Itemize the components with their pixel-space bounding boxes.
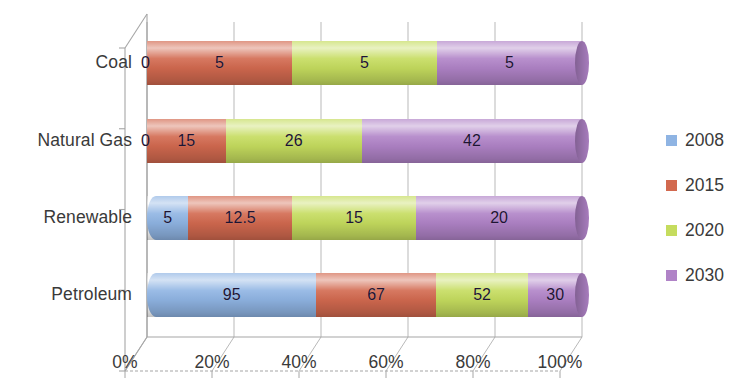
legend-color-swatch xyxy=(666,270,677,281)
bar-row[interactable]: 95675230 xyxy=(147,273,582,317)
value-axis-tick: 80% xyxy=(455,352,490,373)
value-axis-tick: 40% xyxy=(281,352,316,373)
bar-segment-value-label: 5 xyxy=(215,54,224,72)
bar-segment[interactable]: 52 xyxy=(436,273,529,317)
bar-segment[interactable]: 12.5 xyxy=(188,196,292,240)
bar-segment-value-label: 42 xyxy=(463,132,481,150)
bar-segment-value-label: 95 xyxy=(223,286,241,304)
legend-color-swatch xyxy=(666,135,677,146)
legend-item-2008[interactable]: 2008 xyxy=(666,118,724,163)
bar-end-cap xyxy=(575,41,589,85)
bar-row[interactable]: 0152642 xyxy=(147,119,582,163)
bar-segment[interactable]: 95 xyxy=(147,273,316,317)
value-axis-tick: 20% xyxy=(194,352,229,373)
bar-segment-value-label: 20 xyxy=(490,209,508,227)
bar-end-cap xyxy=(575,273,589,317)
value-axis-tick: 100% xyxy=(538,352,583,373)
legend-label: 2015 xyxy=(685,175,724,196)
bar-row[interactable]: 0555 xyxy=(147,41,582,85)
chart-3d-stacked-bar: CoalNatural GasRenewablePetroleum 055501… xyxy=(0,0,736,390)
chart-legend: 2008201520202030 xyxy=(666,118,724,298)
bar-segment[interactable]: 5 xyxy=(437,41,582,85)
bar-segment-value-label: 5 xyxy=(360,54,369,72)
legend-color-swatch xyxy=(666,180,677,191)
bar-segment-value-label: 52 xyxy=(473,286,491,304)
bar-segment[interactable]: 5 xyxy=(147,41,292,85)
bar-segment-value-label: 67 xyxy=(367,286,385,304)
bar-segment-value-label: 12.5 xyxy=(225,209,256,227)
category-label-petroleum: Petroleum xyxy=(51,284,132,305)
bar-segment[interactable]: 15 xyxy=(147,119,226,163)
bar-segment-value-label: 30 xyxy=(546,286,564,304)
legend-item-2015[interactable]: 2015 xyxy=(666,163,724,208)
bar-segment-value-label: 26 xyxy=(285,132,303,150)
bar-end-cap xyxy=(575,119,589,163)
bar-segment[interactable]: 5 xyxy=(147,196,188,240)
bar-segment-value-label: 0 xyxy=(141,132,150,150)
category-label-natural-gas: Natural Gas xyxy=(38,130,132,151)
legend-color-swatch xyxy=(666,225,677,236)
legend-label: 2030 xyxy=(685,265,724,286)
legend-label: 2008 xyxy=(685,130,724,151)
bar-row[interactable]: 512.51520 xyxy=(147,196,582,240)
bar-segment[interactable]: 5 xyxy=(292,41,437,85)
legend-label: 2020 xyxy=(685,220,724,241)
bar-segment-value-label: 5 xyxy=(163,209,172,227)
bar-segment-value-label: 0 xyxy=(141,54,150,72)
category-label-coal: Coal xyxy=(96,52,132,73)
bar-segment[interactable]: 26 xyxy=(226,119,362,163)
legend-item-2020[interactable]: 2020 xyxy=(666,208,724,253)
bar-segment[interactable]: 67 xyxy=(316,273,435,317)
bar-segment[interactable]: 42 xyxy=(362,119,582,163)
bar-segment[interactable]: 30 xyxy=(528,273,582,317)
bar-segment-value-label: 15 xyxy=(177,132,195,150)
category-label-renewable: Renewable xyxy=(44,207,132,228)
value-axis-tick: 0% xyxy=(112,352,137,373)
bar-segment-value-label: 15 xyxy=(345,209,363,227)
bar-segment[interactable]: 20 xyxy=(416,196,582,240)
bar-segment[interactable]: 15 xyxy=(292,196,416,240)
legend-item-2030[interactable]: 2030 xyxy=(666,253,724,298)
bar-segment-value-label: 5 xyxy=(505,54,514,72)
value-axis-tick: 60% xyxy=(368,352,403,373)
bar-end-cap xyxy=(575,196,589,240)
